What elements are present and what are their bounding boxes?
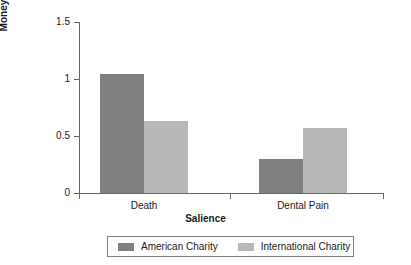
x-axis-category-label: Dental Pain xyxy=(253,200,353,211)
y-axis-tick-label: 0.5 xyxy=(0,131,70,141)
x-axis-title: Salience xyxy=(0,213,411,224)
bar-dental-pain-american-charity xyxy=(259,159,303,193)
bar-chart: Money Donated in US Dollars 00.511.5 Dea… xyxy=(0,0,411,265)
bar-death-international-charity xyxy=(144,121,188,193)
y-axis-tick-label: 1.5 xyxy=(0,17,70,27)
x-axis-line xyxy=(79,193,384,194)
legend-label: American Charity xyxy=(141,241,218,252)
bar-dental-pain-international-charity xyxy=(303,128,347,193)
plot-area xyxy=(80,22,383,193)
x-axis-category-label: Death xyxy=(94,200,194,211)
bar-death-american-charity xyxy=(100,74,144,193)
legend-entry-american-charity: American Charity xyxy=(118,241,218,252)
legend-entry-international-charity: International Charity xyxy=(238,241,351,252)
x-axis-tick xyxy=(230,194,231,199)
chart-legend: American Charity International Charity xyxy=(107,236,354,257)
y-axis-tick xyxy=(74,22,79,23)
legend-swatch-icon xyxy=(118,243,134,251)
y-axis-tick-label: 0 xyxy=(0,188,70,198)
x-axis-tick xyxy=(79,194,80,199)
y-axis-tick xyxy=(74,136,79,137)
y-axis-tick xyxy=(74,79,79,80)
legend-label: International Charity xyxy=(261,241,351,252)
x-axis-tick xyxy=(383,194,384,199)
y-axis-tick-label: 1 xyxy=(0,74,70,84)
legend-swatch-icon xyxy=(238,243,254,251)
